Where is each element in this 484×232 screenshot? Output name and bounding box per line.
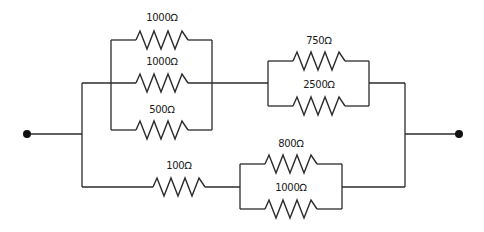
resistor-r6-label: 100Ω bbox=[166, 160, 192, 171]
resistor-r2-label: 1000Ω bbox=[146, 56, 178, 67]
resistor-r3-icon bbox=[136, 121, 188, 139]
resistor-r7-label: 800Ω bbox=[278, 138, 304, 149]
resistor-r7-icon bbox=[265, 155, 317, 173]
resistor-r2-icon bbox=[136, 74, 188, 92]
resistor-r4-icon bbox=[293, 52, 345, 70]
circuit-diagram: 1000Ω 1000Ω 500Ω 750Ω 2500Ω 100Ω 800Ω 10… bbox=[0, 0, 484, 232]
resistor-r4-label: 750Ω bbox=[306, 35, 332, 46]
resistor-r3-label: 500Ω bbox=[149, 104, 175, 115]
resistor-r5-label: 2500Ω bbox=[303, 79, 335, 90]
resistor-r8-icon bbox=[265, 200, 317, 218]
circuit-svg bbox=[0, 0, 484, 232]
left-terminal-icon bbox=[23, 130, 31, 138]
resistor-r1-icon bbox=[136, 31, 188, 49]
resistor-r1-label: 1000Ω bbox=[146, 12, 178, 23]
resistor-r8-label: 1000Ω bbox=[275, 182, 307, 193]
resistor-r5-icon bbox=[293, 97, 345, 115]
resistor-r6-icon bbox=[153, 178, 205, 196]
right-terminal-icon bbox=[455, 130, 463, 138]
